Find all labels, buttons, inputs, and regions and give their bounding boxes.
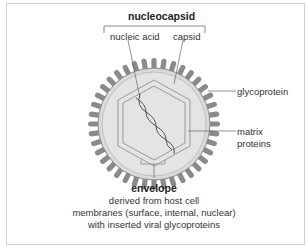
capsid-label: capsid <box>173 31 200 42</box>
envelope-desc-3: with inserted viral glycoproteins <box>0 219 308 231</box>
envelope-desc-1: derived from host cell <box>0 195 308 207</box>
glycoprotein-label: glycoprotein <box>237 86 288 97</box>
proteins-label: proteins <box>237 138 271 149</box>
matrix-label: matrix <box>237 126 263 137</box>
nucleocapsid-title: nucleocapsid <box>128 10 195 22</box>
envelope-desc-2: membranes (surface, internal, nuclear) <box>0 207 308 219</box>
nucleic-acid-label: nucleic acid <box>110 31 160 42</box>
envelope-title: envelope <box>0 182 308 194</box>
